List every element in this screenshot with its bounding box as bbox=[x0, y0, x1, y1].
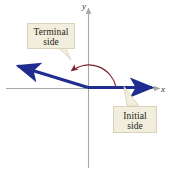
y-axis-label: y bbox=[82, 1, 86, 11]
terminal-side-callout-line-2: side bbox=[28, 37, 74, 47]
initial-side-callout: Initial side bbox=[113, 106, 157, 133]
initial-callout-tail bbox=[124, 87, 139, 107]
initial-side-callout-line-2: side bbox=[114, 121, 156, 131]
x-axis-label: x bbox=[161, 84, 165, 94]
figure-canvas: y x Terminal side Initial side bbox=[0, 0, 174, 172]
terminal-side-callout-line-1: Terminal bbox=[28, 27, 74, 37]
terminal-side-callout: Terminal side bbox=[27, 23, 75, 49]
terminal-side-ray bbox=[18, 66, 88, 88]
initial-side-callout-line-1: Initial bbox=[114, 111, 156, 121]
